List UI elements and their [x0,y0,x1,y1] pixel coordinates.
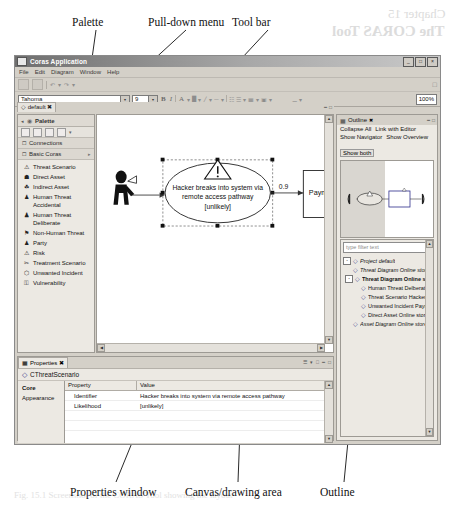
properties-tab-row: ▦ Properties ✖ ☰ ▾ ⎕ ━ □ [18,357,333,369]
outline-maximize-icon[interactable]: □ [432,117,435,123]
column-header-property: Property [65,381,137,390]
filter-input[interactable]: type filter text [343,242,431,253]
expander-icon[interactable]: - [345,275,353,283]
property-value[interactable]: [unlikely] [137,403,333,409]
workbench: ◇ default ✖ ━ □ ◂ ◉ Palette ▾ [17,102,438,441]
select-tool-icon[interactable] [21,128,30,137]
properties-maximize-icon[interactable]: □ [328,359,331,366]
palette-item-vulnerability[interactable]: ⚿ Vulnerability [18,278,94,288]
tree-item-threat-diagram-1[interactable]: ◇ Threat Diagram Online store [343,265,431,274]
properties-scroll-down-icon[interactable]: ▼ [325,435,333,443]
properties-tab-appearance[interactable]: Appearance [18,393,64,403]
outline-overview-thumbnail[interactable] [340,160,434,238]
outline-tab[interactable]: ▦ Outline ✖ ━ □ [337,115,437,125]
outline-scroll-up-icon[interactable]: ▲ [426,240,433,248]
undo-icon[interactable]: ↶ [50,81,55,88]
properties-restore-icon[interactable]: ⎕ [316,359,319,366]
property-name: Likelihood [65,403,137,409]
editor-maximize-icon[interactable]: □ [329,104,332,110]
window-titlebar[interactable]: Coras Application _ □ × [15,56,440,67]
expander-icon[interactable]: - [343,257,351,265]
palette-header[interactable]: ◂ ◉ Palette [18,115,94,127]
show-overview-button[interactable]: Show Overview [386,134,428,140]
canvas-drawing-area[interactable]: Hacker breaks into system via remote acc… [96,114,334,353]
menu-file[interactable]: File [19,69,29,75]
tree-item-threat-scenario[interactable]: ◇ Threat Scenario Hacker bre [343,292,431,301]
properties-minimize-icon[interactable]: ━ [322,359,325,366]
scroll-down-icon[interactable]: ▼ [325,336,333,344]
tree-item-project-default[interactable]: - ◇ Project default [343,256,431,265]
palette-tool-chevron-down-icon[interactable]: ▾ [69,129,72,135]
palette-item-direct-asset[interactable]: ☗ Direct Asset [18,172,94,182]
menu-window[interactable]: Window [80,69,101,75]
close-button[interactable]: × [427,57,438,67]
outline-minimize-icon[interactable]: ━ [427,117,430,123]
new-icon[interactable] [18,79,29,90]
tree-item-asset-diagram[interactable]: ◇ Asset Diagram Online store [343,319,431,328]
minimize-button[interactable]: _ [403,57,414,67]
collapse-all-button[interactable]: Collapse All [340,126,371,132]
tree-item-label: Threat Diagram Online store [360,267,429,273]
palette-item-human-threat-deliberate[interactable]: ♟ Human Threat Deliberate [18,210,94,228]
properties-tab-core[interactable]: Core [18,383,64,393]
palette-item-risk[interactable]: ⚠ Risk [18,248,94,258]
palette-section-connections[interactable]: ☐ Connections [18,138,94,149]
palette-pin-icon[interactable]: ◉ [27,117,32,124]
basic-coras-chevron-icon[interactable]: ▸ [88,151,91,157]
table-row[interactable]: Likelihood [unlikely] [65,401,333,411]
canvas-vertical-scrollbar[interactable]: ▲ ▼ [324,115,333,344]
outline-view-controls: ━ □ [427,117,437,123]
properties-vertical-scrollbar[interactable]: ▲ ▼ [324,381,333,443]
show-navigator-button[interactable]: Show Navigator [340,134,382,140]
editor-tab-label: default [28,104,46,110]
redo-icon[interactable]: ↷ [64,81,69,88]
scroll-right-icon[interactable]: ▶ [317,344,325,352]
palette-item-party[interactable]: ♟ Party [18,238,94,248]
maximize-button[interactable]: □ [415,57,426,67]
menu-diagram[interactable]: Diagram [51,69,74,75]
tree-item-threat-diagram-2[interactable]: - ◇ Threat Diagram Online sto [343,274,431,283]
properties-menu-icon[interactable]: ▾ [310,359,313,366]
outline-vertical-scrollbar[interactable]: ▲ ▼ [425,240,433,436]
palette-item-treatment-scenario[interactable]: ✂ Treatment Scenario [18,258,94,268]
threat-diagram[interactable]: Hacker breaks into system via remote acc… [97,115,333,352]
palette-section-basic-coras[interactable]: ☐ Basic Coras ▸ [18,149,94,160]
link-with-editor-button[interactable]: Link with Editor [375,126,416,132]
properties-tab-close-icon[interactable]: ✖ [59,358,64,368]
palette-item-non-human-threat[interactable]: ⚑ Non-Human Threat [18,228,94,238]
property-value[interactable]: Hacker breaks into system via remote acc… [137,393,333,399]
perspective-icon[interactable]: ☐ [432,81,437,88]
redo-dropdown-icon[interactable]: ▾ [72,81,75,88]
ghost-chapter-title: The CORAS Tool [332,23,445,40]
outline-scroll-down-icon[interactable]: ▼ [426,428,433,436]
editor-tab-default[interactable]: ◇ default ✖ [17,102,56,112]
scroll-up-icon[interactable]: ▲ [325,115,333,123]
marquee-tool-icon[interactable] [33,128,42,137]
menu-help[interactable]: Help [107,69,119,75]
tree-item-direct-asset[interactable]: ◇ Direct Asset Online store [343,310,431,319]
save-icon[interactable] [32,79,43,90]
diagram-icon: ◇ [353,320,358,327]
palette-collapse-icon[interactable]: ◂ [21,118,24,124]
properties-scroll-up-icon[interactable]: ▲ [325,381,333,389]
note-tool-icon[interactable] [57,128,66,137]
outline-tab-icon: ▦ [340,117,346,124]
palette-item-human-threat-accidental[interactable]: ♟ Human Threat Accidental [18,192,94,210]
palette-item-threat-scenario[interactable]: ⚠ Threat Scenario [18,162,94,172]
canvas-horizontal-scrollbar[interactable]: ◀ ▶ [97,343,325,352]
menu-edit[interactable]: Edit [35,69,45,75]
editor-tab-close-icon[interactable]: ✖ [47,104,52,110]
undo-dropdown-icon[interactable]: ▾ [58,81,61,88]
palette-item-unwanted-incident[interactable]: ⬡ Unwanted Incident [18,268,94,278]
palette-item-indirect-asset[interactable]: ☘ Indirect Asset [18,182,94,192]
outline-tab-close-icon[interactable]: ✖ [369,117,373,123]
tree-item-human-threat-deliberate[interactable]: ◇ Human Threat Delberate H [343,283,431,292]
table-row[interactable]: Identifier Hacker breaks into system via… [65,391,333,401]
tab-properties[interactable]: ▦ Properties ✖ [18,357,68,368]
show-both-button[interactable]: Show both [340,149,374,157]
zoom-tool-icon[interactable] [45,128,54,137]
tree-item-unwanted-incident[interactable]: ◇ Unwanted Incident Paymen [343,301,431,310]
editor-minimize-icon[interactable]: ━ [324,104,327,110]
properties-pin-icon[interactable]: ☰ [303,359,307,366]
scroll-left-icon[interactable]: ◀ [97,344,105,352]
